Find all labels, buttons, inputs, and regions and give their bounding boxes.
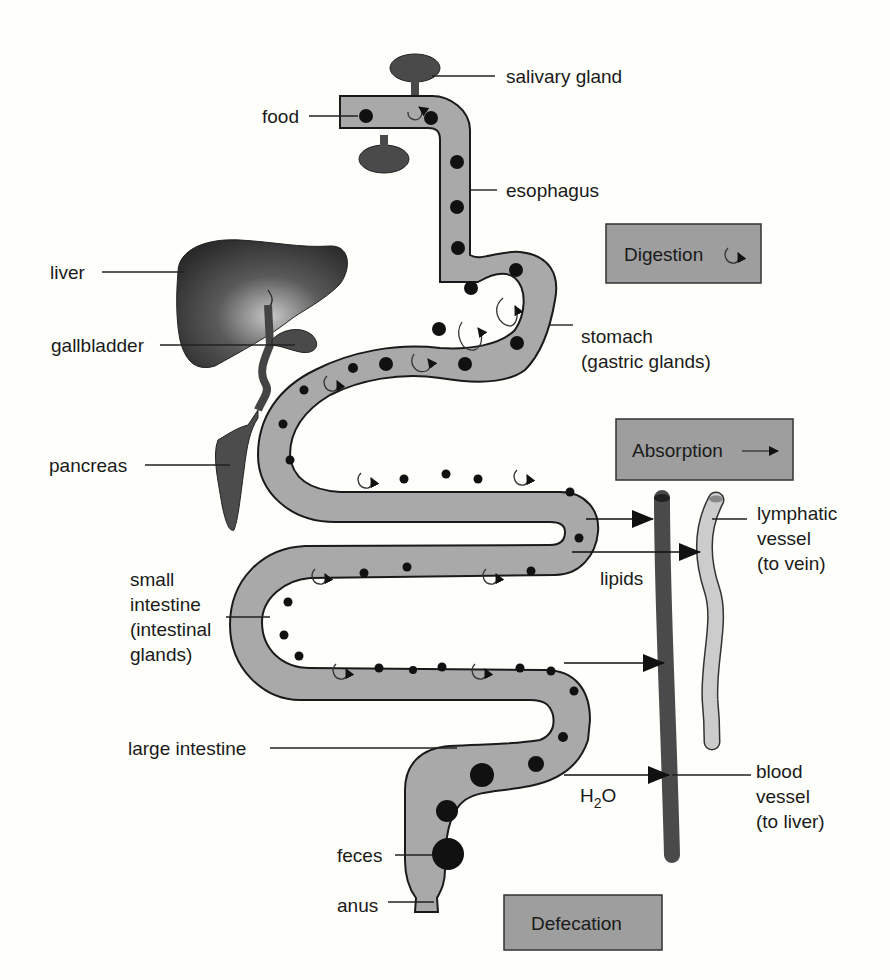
label-blood-vessel-2: vessel [756,786,810,807]
absorption-box: Absorption [616,419,793,480]
svg-text:Defecation: Defecation [531,913,622,934]
label-lipids: lipids [600,568,643,589]
label-liver: liver [50,262,86,283]
label-stomach: stomach [581,326,653,347]
label-small-intestine-3: (intestinal [130,619,211,640]
label-salivary-gland: salivary gland [506,66,622,87]
lymphatic-vessel [704,496,723,743]
label-lymphatic-3: (to vein) [757,553,826,574]
label-food: food [262,106,299,127]
alimentary-canal [230,96,598,912]
label-feces: feces [337,845,382,866]
label-lymphatic-2: vessel [757,528,811,549]
digestion-box: Digestion [606,224,761,283]
svg-text:Absorption: Absorption [632,440,723,461]
label-stomach-sub: (gastric glands) [581,351,711,372]
label-blood-vessel: blood [756,761,803,782]
label-blood-vessel-3: (to liver) [756,811,825,832]
label-small-intestine-4: glands) [130,644,192,665]
digestive-system-diagram: Digestion Absorption Defecation salivary… [0,0,890,980]
label-pancreas: pancreas [49,455,127,476]
defecation-box: Defecation [504,895,662,950]
label-small-intestine: small [130,569,174,590]
churning-arrows [312,107,528,679]
label-esophagus: esophagus [506,180,599,201]
liver [177,240,348,368]
label-small-intestine-2: intestine [130,594,201,615]
blood-vessel [654,494,672,855]
label-large-intestine: large intestine [128,738,246,759]
label-anus: anus [337,895,378,916]
label-h2o: H2O [580,785,616,811]
label-lymphatic: lymphatic [757,503,837,524]
label-gallbladder: gallbladder [51,335,145,356]
pancreas [215,410,258,530]
svg-text:Digestion: Digestion [624,244,703,265]
